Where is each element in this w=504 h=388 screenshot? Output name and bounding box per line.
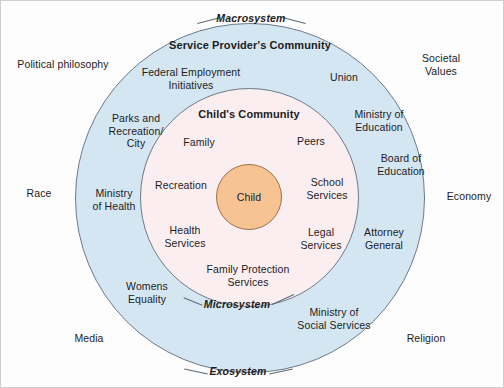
service-provider-item-8: Ministry of Social Services (297, 306, 370, 331)
service-provider-item-7: Womens Equality (126, 280, 168, 305)
childs-community-item-5: Legal Services (300, 226, 341, 251)
childs-community-item-6: Family Protection Services (207, 263, 290, 288)
service-provider-item-3: Ministry of Education (355, 108, 404, 133)
childs-community-item-2: Recreation (155, 179, 207, 192)
macrosystem-factor-4: Media (74, 332, 103, 345)
service-provider-item-6: Attorney General (364, 226, 404, 251)
service-provider-item-0: Federal Employment Initiatives (142, 66, 241, 91)
macrosystem-factor-1: Societal Values (410, 52, 472, 77)
childs-community-item-3: School Services (306, 176, 347, 201)
service-provider-item-2: Parks and Recreation/ City (109, 112, 164, 150)
service-provider-item-4: Board of Education (377, 152, 425, 177)
center-child-label: Child (237, 191, 261, 204)
macrosystem-factor-3: Economy (447, 190, 491, 203)
macrosystem-factor-2: Race (27, 187, 52, 200)
ecological-systems-diagram: Child Service Provider's Community Child… (0, 0, 504, 388)
childs-community-title: Child's Community (198, 108, 299, 121)
macrosystem-label: Macrosystem (216, 12, 285, 25)
service-provider-community-title: Service Provider's Community (169, 39, 331, 52)
service-provider-item-5: Ministry of Health (93, 187, 136, 212)
microsystem-label: Microsystem (204, 298, 270, 311)
childs-community-item-0: Family (183, 136, 215, 149)
service-provider-item-1: Union (330, 71, 358, 84)
childs-community-item-4: Health Services (164, 224, 205, 249)
exosystem-label: Exosystem (209, 365, 266, 378)
macrosystem-factor-0: Political philosophy (17, 58, 108, 71)
macrosystem-tick-right (282, 17, 306, 24)
exosystem-tick-left (184, 369, 208, 375)
childs-community-item-1: Peers (297, 135, 325, 148)
macrosystem-factor-5: Religion (407, 332, 446, 345)
